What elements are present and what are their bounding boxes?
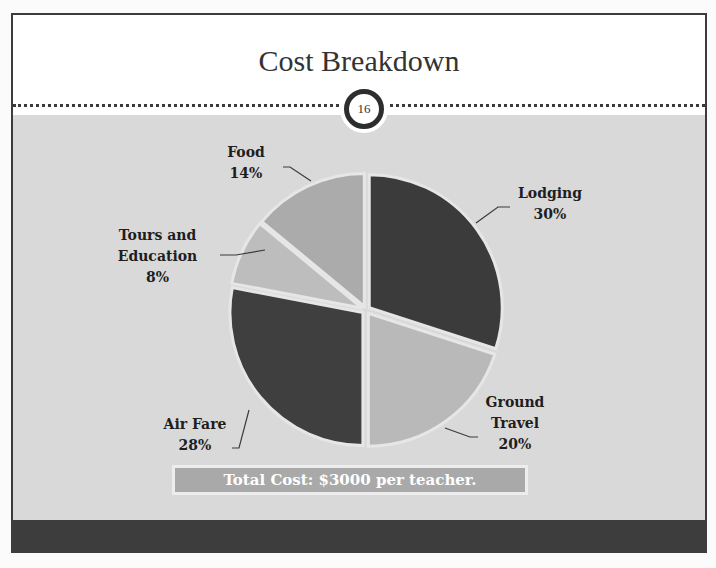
label-airfare-name: Air Fare — [145, 414, 245, 435]
label-food: Food 14% — [206, 142, 286, 184]
label-ground-name2: Travel — [465, 413, 565, 434]
label-airfare-pct: 28% — [145, 435, 245, 456]
label-lodging-pct: 30% — [500, 204, 600, 225]
label-ground-travel: Ground Travel 20% — [465, 392, 565, 455]
label-tours-name2: Education — [100, 246, 215, 267]
label-tours-education: Tours and Education 8% — [100, 225, 215, 288]
label-tours-name1: Tours and — [100, 225, 215, 246]
slice-air-fare — [230, 288, 363, 446]
label-air-fare: Air Fare 28% — [145, 414, 245, 456]
total-cost-box: Total Cost: $3000 per teacher. — [172, 465, 528, 495]
label-food-name: Food — [206, 142, 286, 163]
label-lodging: Lodging 30% — [500, 183, 600, 225]
label-food-pct: 14% — [206, 163, 286, 184]
label-lodging-name: Lodging — [500, 183, 600, 204]
label-ground-pct: 20% — [465, 434, 565, 455]
label-ground-name1: Ground — [465, 392, 565, 413]
label-tours-pct: 8% — [100, 267, 215, 288]
